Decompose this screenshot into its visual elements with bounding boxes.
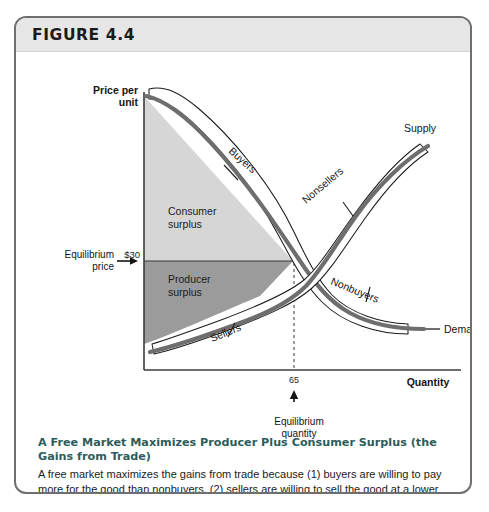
producer-surplus-label-line1: Producer xyxy=(168,273,211,285)
equilibrium-quantity-tick-label: 65 xyxy=(289,375,299,385)
figure-caption: A Free Market Maximizes Producer Plus Co… xyxy=(16,436,472,494)
figure-card: FIGURE 4.4 Demand Supply xyxy=(14,16,472,494)
nonsellers-brace-tick xyxy=(343,202,353,216)
nonsellers-label: Nonsellers xyxy=(300,164,346,205)
caption-title: A Free Market Maximizes Producer Plus Co… xyxy=(38,436,452,464)
equilibrium-price-value: $30 xyxy=(124,249,140,260)
consumer-surplus-label-line2: surplus xyxy=(168,218,202,230)
x-axis-label: Quantity xyxy=(407,376,450,388)
equilibrium-quantity-arrow-head xyxy=(290,390,298,399)
figure-number: FIGURE 4.4 xyxy=(32,26,135,44)
supply-label: Supply xyxy=(404,122,437,134)
y-axis-label-line1: Price per xyxy=(93,84,138,96)
y-axis-label-line2: unit xyxy=(119,96,139,108)
consumer-surplus-label-line1: Consumer xyxy=(168,205,217,217)
equilibrium-price-label-line1: Equilibrium xyxy=(65,249,114,260)
equilibrium-price-label-line2: price xyxy=(92,261,114,272)
demand-label: Demand xyxy=(444,323,472,335)
supply-demand-chart: Demand Supply Buyers Nonsellers Nonbuyer… xyxy=(16,52,472,402)
producer-surplus-label-line2: surplus xyxy=(168,286,202,298)
consumer-surplus-region xyxy=(144,96,293,261)
caption-body: A free market maximizes the gains from t… xyxy=(38,467,452,494)
equilibrium-quantity-caption-line1: Equilibrium xyxy=(244,416,354,428)
